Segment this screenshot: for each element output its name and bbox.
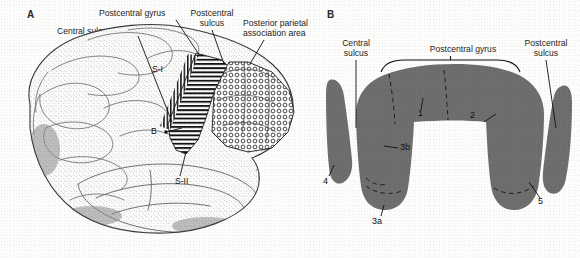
area-3a-label: 3a: [372, 216, 382, 226]
figure-root: A Postcentral gyrus Postcentral sulcus C…: [0, 0, 580, 258]
area-5-label: 5: [538, 196, 543, 206]
area-2-label: 2: [470, 110, 475, 120]
cortex-ribbon: [326, 64, 572, 210]
area-1-label: 1: [418, 108, 423, 118]
panel-b-artwork: [0, 0, 580, 258]
area-4-label: 4: [323, 176, 328, 186]
area-3b-label: 3b: [400, 142, 410, 152]
